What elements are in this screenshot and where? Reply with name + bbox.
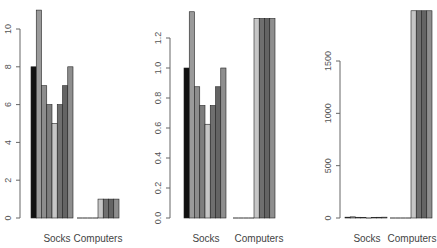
bar-charts-panel: 0246810SocksComputers0.00.20.40.60.81.01… [0, 0, 437, 248]
bar-group-socks [184, 12, 226, 218]
bar [189, 12, 194, 218]
bar [265, 19, 270, 219]
bar [200, 106, 205, 219]
bar [416, 11, 421, 218]
bar-group-computers [233, 19, 275, 219]
bar [422, 11, 427, 218]
bar [36, 10, 41, 218]
y-tick-label: 0.0 [153, 212, 163, 225]
bar [356, 217, 361, 218]
y-tick-label: 0.4 [153, 152, 163, 165]
bar [221, 68, 226, 218]
bar [114, 199, 119, 218]
y-tick-label: 0.6 [153, 122, 163, 135]
x-category-label: Computers [388, 233, 437, 244]
y-tick-label: 1000 [323, 103, 333, 123]
bar [184, 68, 189, 218]
bar-chart-3: 050010001500SocksComputers [323, 11, 436, 244]
bar [345, 217, 350, 218]
y-tick-label: 4 [3, 140, 13, 145]
bar [57, 105, 62, 218]
bar [47, 105, 52, 218]
bar [411, 11, 416, 218]
bar-group-computers [390, 11, 432, 218]
bar [98, 199, 103, 218]
bar-group-socks [31, 10, 73, 218]
x-category-label: Socks [192, 233, 219, 244]
bar-group-computers [77, 199, 119, 218]
y-axis: 0.00.20.40.60.81.01.2 [153, 32, 170, 225]
y-tick-label: 0 [323, 215, 333, 220]
bar-group-socks [345, 217, 387, 218]
y-tick-label: 1.2 [153, 32, 163, 45]
bar [109, 199, 114, 218]
bar [350, 217, 355, 218]
bar [195, 87, 200, 218]
bar [259, 19, 264, 219]
bar [427, 11, 432, 218]
y-tick-label: 0.2 [153, 182, 163, 195]
y-tick-label: 8 [3, 64, 13, 69]
y-tick-label: 6 [3, 102, 13, 107]
bar [31, 67, 36, 218]
y-tick-label: 1500 [323, 51, 333, 71]
x-category-label: Computers [235, 233, 284, 244]
bar [254, 19, 259, 219]
bar-chart-1: 0246810SocksComputers [3, 10, 122, 244]
bar [52, 124, 57, 219]
y-tick-label: 1.0 [153, 62, 163, 75]
y-axis: 050010001500 [323, 51, 340, 221]
bar [361, 217, 366, 218]
bar [210, 106, 215, 219]
x-category-label: Socks [43, 233, 70, 244]
bar [42, 86, 47, 218]
bar-chart-2: 0.00.20.40.60.81.01.2SocksComputers [153, 12, 283, 244]
x-category-label: Computers [74, 233, 123, 244]
y-tick-label: 0.8 [153, 92, 163, 105]
y-tick-label: 10 [3, 24, 13, 34]
y-tick-label: 2 [3, 178, 13, 183]
x-category-label: Socks [353, 233, 380, 244]
bar [371, 217, 376, 218]
y-tick-label: 500 [323, 158, 333, 173]
bar [270, 19, 275, 219]
bar [68, 67, 73, 218]
y-tick-label: 0 [3, 215, 13, 220]
bar [205, 124, 210, 218]
bar [63, 86, 68, 218]
bar [377, 217, 382, 218]
y-axis: 0246810 [3, 24, 20, 221]
bar [103, 199, 108, 218]
bar [216, 87, 221, 218]
bar [382, 217, 387, 218]
